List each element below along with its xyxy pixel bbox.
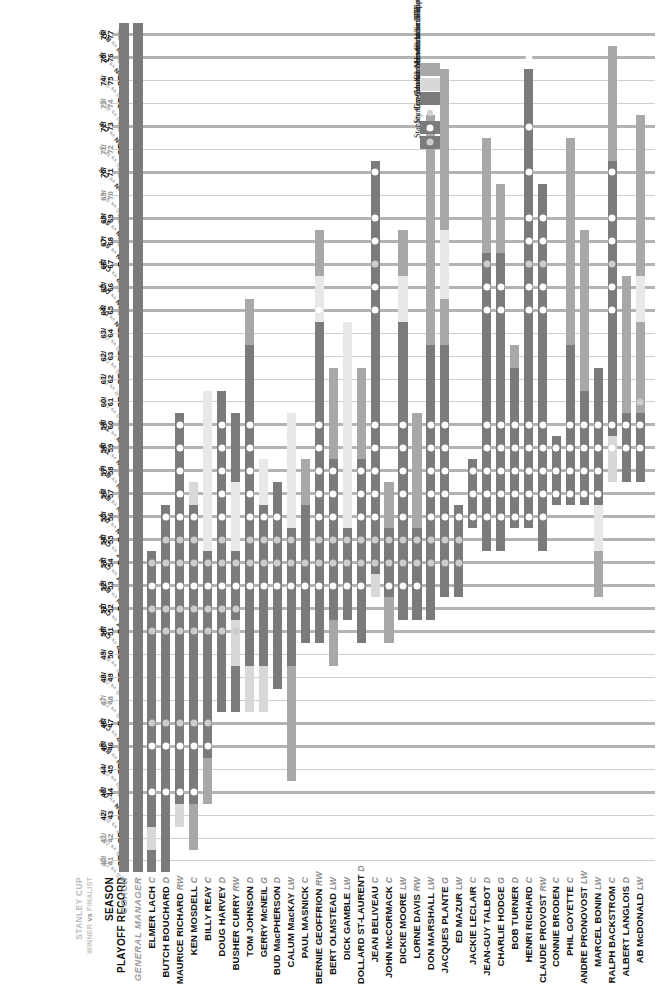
career-segment: [315, 230, 324, 276]
career-bar[interactable]: [175, 413, 184, 826]
cup-winner-dot: [525, 284, 532, 291]
cup-winner-dot: [497, 284, 504, 291]
row-label: RALPH BACKSTROM C: [606, 877, 617, 984]
cup-winner-dot: [316, 490, 323, 497]
career-segment: [482, 138, 491, 253]
season-label: 76/77: [100, 24, 115, 46]
career-bar[interactable]: [133, 23, 142, 872]
career-bar[interactable]: [580, 230, 589, 505]
row-label: JEAN-GUY TALBOT D: [481, 877, 492, 984]
cup-winner-dot: [204, 743, 211, 750]
cup-winner-dot: [400, 421, 407, 428]
season-label: 69/70: [100, 184, 115, 206]
cup-winner-dot: [595, 490, 602, 497]
row-label: JEAN BELIVEAU C: [369, 877, 380, 984]
cup-winner-dot: [497, 421, 504, 428]
career-segment: [133, 23, 142, 872]
season-label: 54/55: [100, 529, 115, 551]
cup-finalist-dot: [372, 559, 379, 566]
cup-finalist-dot: [539, 261, 546, 268]
cup-winner-dot: [539, 444, 546, 451]
cup-winner-dot: [400, 582, 407, 589]
cup-winner-dot: [386, 582, 393, 589]
legend-swatch: [420, 93, 440, 106]
career-bar[interactable]: [147, 551, 156, 872]
legend-swatch-pip: [427, 125, 434, 132]
season-label: 56/57: [100, 483, 115, 505]
row-label: LORNE DAVIS RW: [411, 877, 422, 984]
season-label: 47/48: [100, 689, 115, 711]
cup-finalist-dot: [218, 605, 225, 612]
career-segment: [259, 666, 268, 712]
cup-winner-dot: [511, 513, 518, 520]
cup-winner-dot: [609, 421, 616, 428]
career-segment: [608, 46, 617, 161]
legend-swatch-fill: [420, 78, 440, 91]
cup-winner-dot: [525, 238, 532, 245]
cup-winner-dot: [260, 582, 267, 589]
career-bar[interactable]: [301, 459, 310, 643]
cup-finalist-dot: [190, 605, 197, 612]
career-bar[interactable]: [524, 69, 533, 528]
cup-finalist-dot: [218, 536, 225, 543]
career-bar[interactable]: [510, 345, 519, 529]
cup-winner-dot: [162, 513, 169, 520]
cup-finalist-dot: [455, 559, 462, 566]
career-segment: [398, 276, 407, 322]
career-bar[interactable]: [343, 322, 352, 620]
cup-winner-dot: [190, 789, 197, 796]
cup-finalist-dot: [162, 536, 169, 543]
cup-finalist-dot: [232, 628, 239, 635]
season-gridline: [112, 861, 655, 862]
cup-winner-dot: [567, 490, 574, 497]
legend-swatch: [420, 64, 440, 77]
cup-winner-dot: [455, 513, 462, 520]
career-bar[interactable]: [357, 368, 366, 643]
cup-winner-dot: [176, 467, 183, 474]
cup-finalist-dot: [455, 536, 462, 543]
cup-winner-dot: [581, 421, 588, 428]
career-bar[interactable]: [217, 391, 226, 712]
row-label: DICKIE MOORE LW: [397, 877, 408, 984]
cup-winner-dot: [316, 421, 323, 428]
cup-winner-dot: [609, 169, 616, 176]
cup-winner-dot: [413, 582, 420, 589]
cup-finalist-dot: [637, 399, 644, 406]
career-bar[interactable]: [426, 115, 435, 620]
row-label: DOLLARD ST-LAURENT D: [355, 877, 366, 984]
career-bar[interactable]: [119, 23, 128, 872]
career-bar[interactable]: [315, 230, 324, 643]
career-segment: [231, 620, 240, 666]
cup-winner-dot: [427, 513, 434, 520]
cup-winner-dot: [539, 215, 546, 222]
cup-finalist-dot: [316, 559, 323, 566]
cup-winner-dot: [539, 284, 546, 291]
career-bar[interactable]: [203, 391, 212, 804]
career-segment: [412, 413, 421, 528]
career-bar[interactable]: [371, 161, 380, 597]
row-label: JACKIE LECLAIR C: [467, 877, 478, 984]
career-segment: [329, 368, 338, 460]
cup-winner-dot: [372, 284, 379, 291]
career-bar[interactable]: [482, 138, 491, 551]
career-bar[interactable]: [287, 413, 296, 780]
cup-winner-dot: [637, 421, 644, 428]
legend-swatch-pip: [427, 139, 434, 146]
cup-winner-dot: [441, 513, 448, 520]
cup-winner-dot: [525, 513, 532, 520]
cup-winner-dot: [595, 444, 602, 451]
cup-winner-dot: [525, 123, 532, 130]
cup-winner-dot: [372, 513, 379, 520]
cup-winner-dot: [539, 421, 546, 428]
cup-winner-dot: [176, 421, 183, 428]
cup-finalist-dot: [372, 536, 379, 543]
cup-winner-dot: [400, 467, 407, 474]
row-label: KEN MOSDELL C: [188, 877, 199, 984]
season-label: 64/65: [100, 299, 115, 321]
career-segment: [636, 276, 645, 322]
career-segment: [440, 69, 449, 230]
career-bar[interactable]: [594, 368, 603, 598]
career-bar[interactable]: [245, 299, 254, 712]
cup-finalist-dot: [483, 261, 490, 268]
cup-winner-dot: [218, 582, 225, 589]
